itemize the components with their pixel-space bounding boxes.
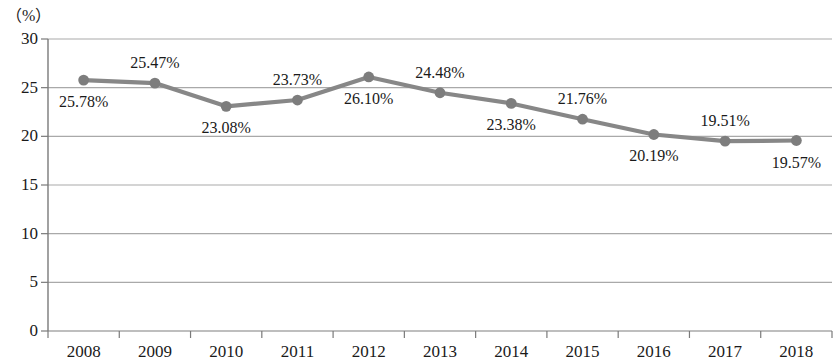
- x-tick-label: 2015: [543, 343, 623, 360]
- x-tick-label: 2010: [186, 343, 266, 360]
- data-point-label: 26.10%: [324, 91, 414, 107]
- x-tick-label: 2012: [329, 343, 409, 360]
- y-tick-label: 20: [0, 127, 38, 144]
- data-point-marker: [363, 72, 374, 83]
- data-point-marker: [78, 75, 89, 86]
- x-tick-label: 2011: [257, 343, 337, 360]
- y-tick-label: 25: [0, 79, 38, 96]
- y-tick-label: 10: [0, 225, 38, 242]
- data-point-marker: [577, 114, 588, 125]
- data-point-label: 19.51%: [680, 113, 770, 129]
- x-axis-ticks: [48, 331, 832, 338]
- data-point-marker: [648, 129, 659, 140]
- data-point-marker: [150, 78, 161, 89]
- data-point-label: 23.73%: [252, 72, 342, 88]
- data-point-marker: [292, 95, 303, 106]
- data-point-label: 21.76%: [538, 91, 628, 107]
- x-tick-label: 2016: [614, 343, 694, 360]
- data-point-marker: [435, 87, 446, 98]
- data-point-label: 19.57%: [751, 155, 837, 171]
- y-tick-label: 30: [0, 30, 38, 47]
- data-point-marker: [720, 136, 731, 147]
- data-point-label: 25.78%: [39, 94, 129, 110]
- data-point-label: 25.47%: [110, 55, 200, 71]
- data-point-label: 20.19%: [609, 148, 699, 164]
- data-point-marker: [506, 98, 517, 109]
- y-tick-label: 0: [0, 322, 38, 339]
- x-tick-label: 2008: [44, 343, 124, 360]
- x-tick-label: 2009: [115, 343, 195, 360]
- data-point-label: 23.38%: [466, 117, 556, 133]
- y-tick-label: 5: [0, 273, 38, 290]
- x-tick-label: 2017: [685, 343, 765, 360]
- data-point-marker: [791, 135, 802, 146]
- data-point-marker: [221, 101, 232, 112]
- data-point-label: 24.48%: [395, 65, 485, 81]
- x-tick-label: 2013: [400, 343, 480, 360]
- data-point-label: 23.08%: [181, 120, 271, 136]
- x-tick-label: 2018: [756, 343, 836, 360]
- x-tick-label: 2014: [471, 343, 551, 360]
- y-tick-label: 15: [0, 176, 38, 193]
